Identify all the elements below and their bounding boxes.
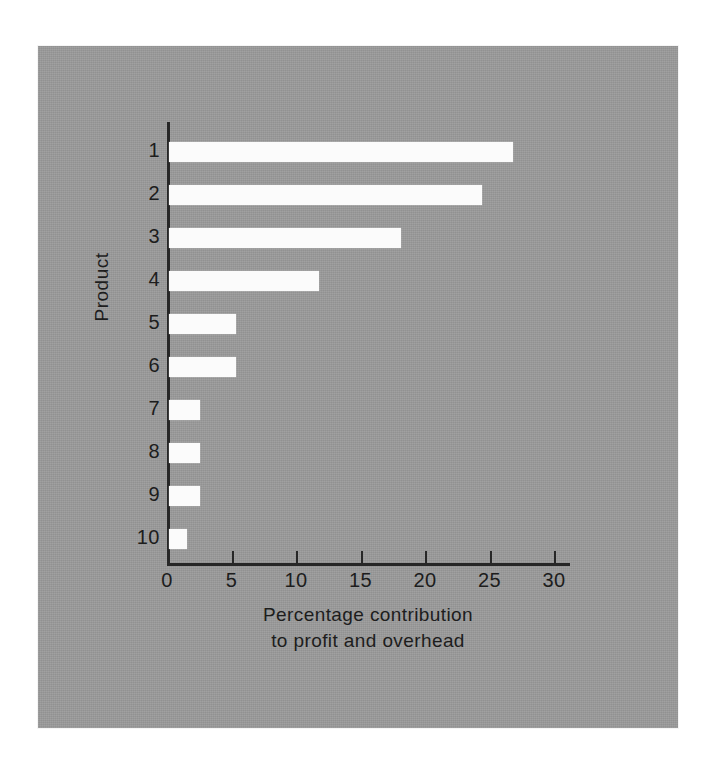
chart-axes: 051015202530 12345678910 Product Percent… <box>38 46 678 728</box>
y-axis-category-label: 2 <box>100 182 160 205</box>
y-axis-category-label: 10 <box>100 526 160 549</box>
bar <box>169 529 187 549</box>
x-axis-tick-label: 10 <box>284 569 307 592</box>
y-axis-category-label: 7 <box>100 397 160 420</box>
x-axis-tick-label: 20 <box>413 569 436 592</box>
y-axis-category-label-wrap: 7 <box>100 397 160 420</box>
x-axis-tick-label: 0 <box>161 569 173 592</box>
y-axis-category-label-wrap: 9 <box>100 483 160 506</box>
bar <box>169 443 200 463</box>
x-axis-title-line-2: to profit and overhead <box>138 628 598 654</box>
bar <box>169 357 236 377</box>
x-axis-tick <box>425 551 427 563</box>
x-axis-tick-label: 25 <box>478 569 501 592</box>
y-axis-category-label: 6 <box>100 354 160 377</box>
y-axis-category-label-wrap: 1 <box>100 139 160 162</box>
x-axis-tick <box>167 551 169 563</box>
x-axis-tick <box>232 551 234 563</box>
x-axis-tick <box>296 551 298 563</box>
x-axis-tick <box>361 551 363 563</box>
bar <box>169 185 482 205</box>
chart-plate: 051015202530 12345678910 Product Percent… <box>38 46 678 728</box>
y-axis-category-label: 1 <box>100 139 160 162</box>
chart-page: 051015202530 12345678910 Product Percent… <box>0 0 707 767</box>
y-axis-category-label: 9 <box>100 483 160 506</box>
bar <box>169 400 200 420</box>
x-axis-tick-label: 15 <box>349 569 372 592</box>
y-axis-category-label-wrap: 8 <box>100 440 160 463</box>
x-axis-title-line-1: Percentage contribution <box>138 602 598 628</box>
x-axis-tick <box>554 551 556 563</box>
y-axis-category-label-wrap: 6 <box>100 354 160 377</box>
y-axis-category-label-wrap: 10 <box>100 526 160 549</box>
y-axis-category-label: 8 <box>100 440 160 463</box>
x-axis-line <box>167 563 570 566</box>
bar <box>169 228 401 248</box>
bar <box>169 314 236 334</box>
y-axis-category-label-wrap: 2 <box>100 182 160 205</box>
bar <box>169 142 513 162</box>
y-axis-title: Product <box>91 217 113 357</box>
x-axis-tick-label: 5 <box>226 569 238 592</box>
x-axis-tick-label: 30 <box>542 569 565 592</box>
x-axis-title: Percentage contribution to profit and ov… <box>138 602 598 654</box>
bar <box>169 486 200 506</box>
x-axis-tick <box>490 551 492 563</box>
bar <box>169 271 319 291</box>
